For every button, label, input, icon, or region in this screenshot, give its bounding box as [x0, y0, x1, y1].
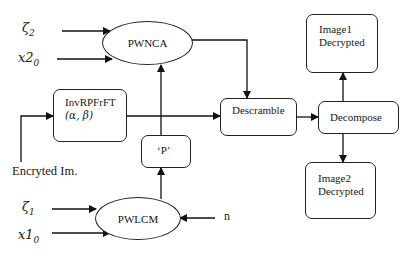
- node-pwlcm-label: PWLCM: [118, 213, 158, 225]
- input-x1-0: x10: [18, 227, 39, 245]
- node-pwlcm: PWLCM: [95, 197, 181, 240]
- node-p-label: ‘P’: [157, 144, 170, 157]
- node-decompose-label: Decompose: [330, 111, 382, 124]
- node-decompose: Decompose: [318, 101, 399, 134]
- node-image1-sublabel: Decrypted: [319, 36, 365, 49]
- node-p: ‘P’: [141, 135, 191, 168]
- input-encrypted-image: Encryted Im.: [12, 165, 77, 178]
- edge-pwnca-descramble: [192, 40, 247, 98]
- node-invrpfrft: InvRPFrFT (α, β): [53, 89, 127, 142]
- node-pwnca-label: PWNCA: [128, 37, 168, 49]
- node-image1-label: Image1: [319, 23, 352, 36]
- node-invrpfrft-params: (α, β): [65, 109, 93, 122]
- node-image2-decrypted: Image2 Decrypted: [305, 162, 376, 219]
- edge-encrypted-invrpfrft: [21, 116, 53, 162]
- node-image2-label: Image2: [318, 172, 351, 185]
- node-image1-decrypted: Image1 Decrypted: [306, 14, 378, 73]
- node-descramble-label: Descramble: [232, 104, 285, 117]
- node-image2-sublabel: Decrypted: [318, 185, 364, 198]
- input-n: n: [224, 210, 230, 223]
- node-descramble: Descramble: [220, 98, 297, 136]
- input-x2-0: x20: [18, 50, 39, 68]
- node-invrpfrft-label: InvRPFrFT: [65, 96, 116, 109]
- node-pwnca: PWNCA: [102, 21, 193, 65]
- input-zeta1: ζ1: [22, 199, 35, 217]
- input-zeta2: ζ2: [22, 20, 35, 38]
